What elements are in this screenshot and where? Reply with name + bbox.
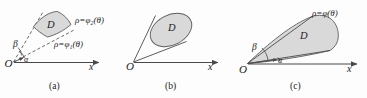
panel-a-angle-label-beta: β <box>12 39 18 49</box>
panel-c-region-label: D <box>299 30 308 41</box>
panel-b-axis-label: x <box>207 61 213 72</box>
panel-b-region-label: D <box>167 22 176 33</box>
panel-a: O x D β α ρ=φ₂(θ) ρ=φ₁(θ) (a) <box>5 12 104 93</box>
figure-canvas: O x D β α ρ=φ₂(θ) ρ=φ₁(θ) (a) O x D (b) <box>0 0 367 98</box>
panel-c: O x D β α ρ=φ(θ) (c) <box>239 8 357 92</box>
panel-c-caption: (c) <box>290 81 301 92</box>
panel-b-caption: (b) <box>165 81 176 92</box>
panel-c-axis-label: x <box>346 63 352 74</box>
panel-a-axis-label: x <box>88 61 94 72</box>
panel-c-angle-label-beta: β <box>251 42 257 52</box>
figure-container: O x D β α ρ=φ₂(θ) ρ=φ₁(θ) (a) O x D (b) <box>0 0 367 98</box>
panel-b-origin-label: O <box>126 60 134 72</box>
panel-a-caption: (a) <box>49 81 60 92</box>
panel-a-region-label: D <box>46 19 55 30</box>
panel-b: O x D (b) <box>126 7 218 92</box>
panel-c-curve-label: ρ=φ(θ) <box>311 8 338 18</box>
panel-a-origin-label: O <box>5 57 13 69</box>
panel-a-curve-label-inner: ρ=φ₁(θ) <box>53 39 83 49</box>
panel-c-origin-label: O <box>239 63 247 75</box>
panel-a-alpha-pointer <box>14 58 24 63</box>
panel-a-curve-label-outer: ρ=φ₂(θ) <box>74 15 104 25</box>
